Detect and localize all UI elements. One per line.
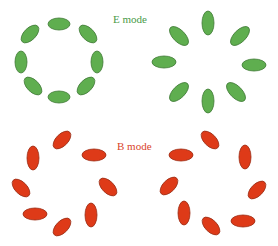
- e-mode-label: E mode: [113, 13, 147, 25]
- figure-canvas: E mode B mode: [0, 0, 278, 246]
- b-mode-label: B mode: [117, 140, 152, 152]
- b-mode-pattern-left: [9, 128, 120, 239]
- polarization-patterns: [0, 0, 278, 246]
- b-mode-pattern-right: [157, 128, 269, 238]
- e-mode-radial-pattern: [152, 11, 266, 113]
- e-mode-tangential-pattern: [15, 18, 103, 103]
